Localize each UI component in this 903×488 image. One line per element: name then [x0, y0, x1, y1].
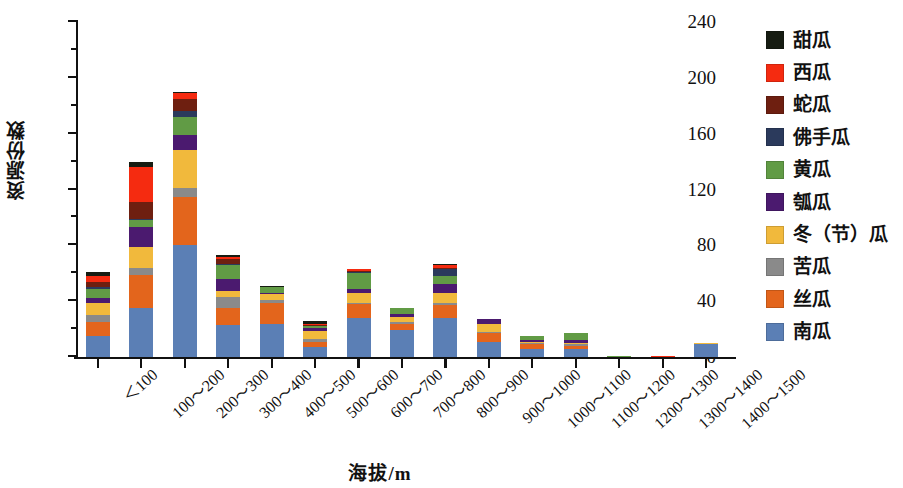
bar-segment — [173, 135, 197, 150]
legend-color-swatch-icon — [766, 323, 784, 341]
bar-9 — [477, 319, 501, 357]
legend-item-label: 甜瓜 — [793, 31, 831, 50]
bar-8 — [433, 264, 457, 357]
bar-segment — [216, 279, 240, 292]
bar-segment — [216, 308, 240, 325]
legend-item-label: 南瓜 — [793, 322, 831, 341]
y-axis-tick-major — [68, 76, 76, 78]
bar-3 — [216, 255, 240, 357]
bar-7 — [390, 308, 414, 357]
bar-segment — [694, 344, 718, 357]
legend-item-label: 苦瓜 — [793, 257, 831, 276]
bar-segment — [564, 333, 588, 340]
bar-segment — [173, 117, 197, 135]
legend-item: 丝瓜 — [766, 283, 901, 315]
legend-color-swatch-icon — [766, 290, 784, 308]
bar-segment — [477, 324, 501, 332]
bar-segment — [173, 245, 197, 357]
bar-segment — [86, 303, 110, 316]
bar-segment — [303, 347, 327, 357]
bar-segment — [390, 330, 414, 357]
bar-segment — [564, 349, 588, 357]
bar-segment — [129, 308, 153, 357]
y-axis-tick-label: 160 — [688, 123, 717, 145]
y-axis-tick-major — [68, 243, 76, 245]
legend-item: 南瓜 — [766, 316, 901, 348]
bar-segment — [129, 275, 153, 309]
legend-color-swatch-icon — [766, 193, 784, 211]
y-axis-tick-minor — [71, 215, 76, 217]
bar-segment — [129, 202, 153, 219]
bar-segment — [477, 333, 501, 341]
y-axis-tick-label: 40 — [697, 290, 716, 312]
x-axis-title: 海拔/m — [0, 458, 760, 485]
bar-11 — [564, 333, 588, 357]
legend-item-label: 丝瓜 — [793, 290, 831, 309]
chart-legend: 甜瓜西瓜蛇瓜佛手瓜黄瓜瓠瓜冬（节）瓜苦瓜丝瓜南瓜 — [766, 24, 901, 348]
y-axis-tick-minor — [71, 327, 76, 329]
y-axis-tick-major — [68, 20, 76, 22]
y-axis-tick-minor — [71, 104, 76, 106]
legend-item: 甜瓜 — [766, 24, 901, 56]
bar-10 — [520, 336, 544, 357]
bar-segment — [129, 227, 153, 247]
x-axis-tick-labels: ＜100100～200200～300300～400400～500500～6006… — [0, 362, 903, 462]
legend-item-label: 西瓜 — [793, 63, 831, 82]
legend-item-label: 黄瓜 — [793, 160, 831, 179]
legend-item: 苦瓜 — [766, 251, 901, 283]
legend-item: 佛手瓜 — [766, 121, 901, 153]
bar-13 — [651, 356, 675, 357]
legend-color-swatch-icon — [766, 258, 784, 276]
legend-item: 冬（节）瓜 — [766, 218, 901, 250]
bar-segment — [433, 269, 457, 276]
bar-segment — [260, 324, 284, 358]
y-axis-tick-label: 120 — [688, 179, 717, 201]
legend-color-swatch-icon — [766, 226, 784, 244]
y-axis-tick-major — [68, 188, 76, 190]
y-axis-title: 资源份数 — [6, 120, 32, 200]
stacked-bar-chart: 资源份数 04080120160200240 ＜100100～200200～30… — [0, 0, 903, 488]
bar-segment — [347, 318, 371, 357]
bar-segment — [86, 336, 110, 357]
bar-segment — [477, 342, 501, 357]
legend-item-label: 冬（节）瓜 — [793, 225, 888, 244]
legend-item: 西瓜 — [766, 56, 901, 88]
plot-area: 04080120160200240 — [76, 22, 728, 357]
y-axis-tick-label: 240 — [688, 11, 717, 33]
y-axis-tick-major — [68, 299, 76, 301]
bar-segment — [520, 349, 544, 357]
y-axis-tick-label: 200 — [688, 67, 717, 89]
bar-segment — [347, 273, 371, 288]
y-axis-tick-minor — [71, 160, 76, 162]
bar-segment — [173, 188, 197, 196]
bar-segment — [86, 315, 110, 322]
bar-segment — [173, 197, 197, 246]
bar-segment — [260, 303, 284, 324]
bar-12 — [607, 356, 631, 357]
y-axis-tick-major — [68, 132, 76, 134]
bar-segment — [433, 293, 457, 303]
bar-5 — [303, 321, 327, 357]
bar-segment — [86, 322, 110, 336]
legend-color-swatch-icon — [766, 64, 784, 82]
bar-segment — [216, 297, 240, 308]
bar-1 — [129, 162, 153, 357]
legend-item-label: 蛇瓜 — [793, 95, 831, 114]
bar-segment — [433, 318, 457, 357]
bar-segment — [216, 325, 240, 357]
y-axis-tick-label: 80 — [697, 234, 716, 256]
legend-item: 黄瓜 — [766, 154, 901, 186]
legend-color-swatch-icon — [766, 31, 784, 49]
bar-segment — [433, 305, 457, 318]
bar-segment — [303, 331, 327, 339]
bar-segment — [173, 150, 197, 188]
bar-segment — [129, 268, 153, 275]
bar-segment — [347, 293, 371, 303]
bar-segment — [390, 324, 414, 331]
legend-color-swatch-icon — [766, 128, 784, 146]
x-axis-tick-label: ＜100 — [116, 362, 162, 407]
bar-segment — [86, 289, 110, 299]
legend-item: 瓠瓜 — [766, 186, 901, 218]
bar-14 — [694, 343, 718, 357]
legend-item-label: 佛手瓜 — [793, 128, 850, 147]
